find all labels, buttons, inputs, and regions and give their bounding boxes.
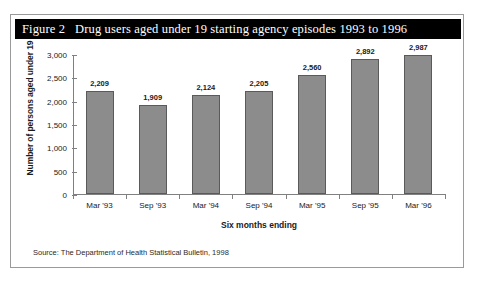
x-axis-category-label: Mar '96 [405, 201, 431, 210]
x-axis-line [73, 194, 445, 195]
x-axis-category-label: Sep '95 [352, 201, 379, 210]
y-axis-tick-label: 2,000 [47, 97, 67, 106]
figure-title-bar: Figure 2 Drug users aged under 19 starti… [15, 19, 461, 39]
y-axis-tick-label: 0 [63, 191, 67, 200]
y-axis-tick-label: 500 [54, 167, 67, 176]
bar-value-label: 1,909 [143, 93, 162, 102]
bar-group: 2,560Mar '95 [286, 54, 339, 194]
x-axis-tick [232, 194, 233, 199]
y-axis-tick-label: 1,000 [47, 144, 67, 153]
bar [404, 55, 432, 194]
x-axis-category-label: Sep '94 [246, 201, 273, 210]
bar-value-label: 2,987 [409, 43, 428, 52]
x-axis-tick [179, 194, 180, 199]
plot-region: 05001,0001,5002,0002,5003,000 2,209Mar '… [73, 55, 445, 195]
bar-group: 2,124Mar '94 [179, 54, 232, 194]
figure-panel: Figure 2 Drug users aged under 19 starti… [10, 14, 464, 268]
bar-group: 2,892Sep '95 [339, 54, 392, 194]
bar [192, 95, 220, 194]
bar-value-label: 2,124 [196, 83, 215, 92]
bar-series: 2,209Mar '931,909Sep '932,124Mar '942,20… [73, 54, 445, 194]
bar [351, 59, 379, 194]
bar-group: 2,209Mar '93 [73, 54, 126, 194]
x-axis-tick [286, 194, 287, 199]
bar-group: 1,909Sep '93 [126, 54, 179, 194]
x-axis-tick [339, 194, 340, 199]
bar-value-label: 2,560 [303, 63, 322, 72]
y-axis-tick-label: 3,000 [47, 51, 67, 60]
y-axis-title: Number of persons aged under 19 [25, 33, 35, 183]
bar-value-label: 2,209 [90, 79, 109, 88]
source-note: Source: The Department of Health Statist… [33, 248, 229, 257]
x-axis-category-label: Mar '94 [193, 201, 219, 210]
y-axis-tick-label: 1,500 [47, 121, 67, 130]
x-axis-tick [392, 194, 393, 199]
bar-value-label: 2,892 [356, 47, 375, 56]
x-axis-category-label: Sep '93 [139, 201, 166, 210]
figure-title: Figure 2 Drug users aged under 19 starti… [15, 22, 407, 37]
y-axis-tick-label: 2,500 [47, 74, 67, 83]
chart-area: Number of persons aged under 19 05001,00… [11, 43, 465, 243]
bar [86, 91, 114, 194]
x-axis-category-label: Mar '93 [86, 201, 112, 210]
bar [298, 75, 326, 194]
bar-group: 2,205Sep '94 [232, 54, 285, 194]
x-axis-title: Six months ending [73, 220, 445, 230]
bar-group: 2,987Mar '96 [392, 54, 445, 194]
bar [139, 105, 167, 194]
x-axis-category-label: Mar '95 [299, 201, 325, 210]
bar [245, 91, 273, 194]
x-axis-tick [73, 194, 74, 199]
bar-value-label: 2,205 [250, 79, 269, 88]
x-axis-tick [445, 194, 446, 199]
x-axis-tick [126, 194, 127, 199]
